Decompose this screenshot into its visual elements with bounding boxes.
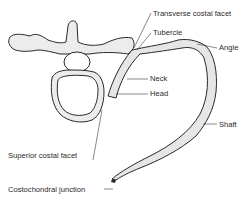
vertebra: [9, 21, 134, 122]
label-costochondral-junction: Costochondral junction: [8, 186, 85, 194]
label-shaft: Shaft: [219, 121, 237, 129]
transverse-processes: [9, 21, 134, 54]
vertebral-body-inner: [57, 75, 98, 115]
leader-transverse-costal-facet: [134, 13, 151, 48]
rib-body: [108, 39, 217, 180]
label-superior-costal-facet: Superior costal facet: [8, 152, 77, 160]
label-angle: Angle: [219, 44, 238, 52]
leader-lines: [93, 13, 217, 189]
label-tubercle: Tubercle: [153, 29, 182, 37]
rib: [108, 39, 217, 180]
label-neck: Neck: [150, 75, 167, 83]
label-head: Head: [150, 90, 168, 98]
label-transverse-costal-facet: Transverse costal facet: [153, 10, 231, 18]
vertebra-rib-diagram: [0, 0, 247, 201]
vertebral-foramen: [64, 52, 90, 72]
